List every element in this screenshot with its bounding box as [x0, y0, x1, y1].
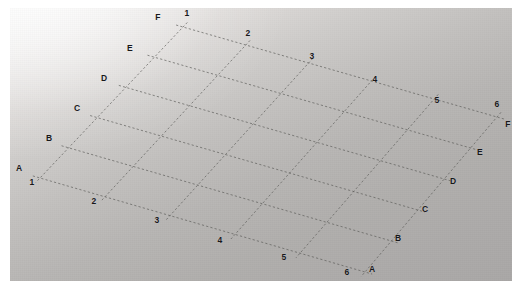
grid-line-letter-F — [176, 25, 504, 119]
bottom_numbers-label-2-1: 2 — [92, 197, 97, 206]
top_numbers-label-6-5: 6 — [495, 100, 500, 109]
right_letters-label-A-5: A — [369, 265, 375, 274]
grid-line-number-4 — [231, 76, 376, 239]
grid-line-letter-E — [147, 55, 477, 150]
perspective-grid-figure: FEDCBAFEDCBA123456123456 — [0, 0, 522, 296]
bottom_numbers-label-5-4: 5 — [282, 253, 287, 262]
right_letters-label-B-4: B — [395, 234, 401, 243]
grid-line-number-2 — [101, 40, 250, 201]
left_letters-label-B-4: B — [46, 134, 52, 143]
grid-line-letter-A — [33, 176, 372, 274]
left_letters-label-A-5: A — [16, 164, 22, 173]
left_letters-label-E-1: E — [127, 44, 133, 53]
top_numbers-label-2-1: 2 — [246, 29, 251, 38]
right_letters-label-F-0: F — [505, 120, 510, 129]
bottom_numbers-label-1-0: 1 — [30, 178, 35, 187]
top_numbers-label-5-4: 5 — [435, 96, 440, 105]
grid-line-letter-B — [62, 146, 399, 243]
left_letters-label-D-2: D — [101, 74, 107, 83]
right_letters-label-C-3: C — [422, 205, 428, 214]
top_numbers-label-3-2: 3 — [310, 52, 315, 61]
top_numbers-label-1-0: 1 — [185, 9, 190, 18]
grid-line-number-1 — [36, 22, 188, 182]
grid-line-letter-D — [119, 85, 451, 181]
left_letters-label-F-0: F — [155, 13, 160, 22]
bottom_numbers-label-3-2: 3 — [155, 216, 160, 225]
right_letters-label-D-2: D — [450, 177, 456, 186]
top_numbers-label-4-3: 4 — [373, 75, 378, 84]
grid-line-number-3 — [166, 58, 313, 220]
bottom_numbers-label-4-3: 4 — [218, 236, 223, 245]
grid-line-number-5 — [296, 94, 438, 257]
grid-lines-svg — [0, 0, 522, 296]
right_letters-label-E-1: E — [477, 148, 483, 157]
left_letters-label-C-3: C — [74, 104, 80, 113]
bottom_numbers-label-6-5: 6 — [345, 268, 350, 277]
grid-line-letter-C — [90, 116, 425, 212]
